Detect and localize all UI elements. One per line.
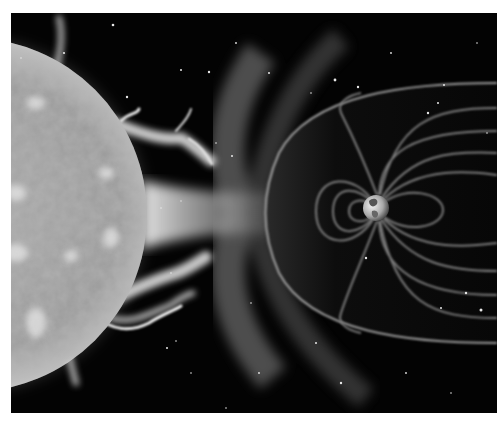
earth <box>363 195 389 221</box>
space-illustration <box>11 13 497 413</box>
